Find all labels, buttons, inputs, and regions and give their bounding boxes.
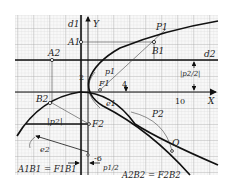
- label-y: Y: [93, 19, 100, 29]
- point-q: [171, 150, 174, 153]
- label-p1-dim: p1: [105, 67, 115, 76]
- equation-1: A1B1 = F1B1: [17, 164, 77, 174]
- label-q: Q: [172, 138, 180, 148]
- label-p2-curve: P2: [151, 109, 164, 119]
- label-half-p2: |p2/2|: [180, 70, 200, 78]
- label-e2: e2: [40, 145, 50, 154]
- label-b1: B1: [151, 46, 164, 56]
- label-a2: A2: [47, 48, 60, 58]
- point-f1: [99, 89, 102, 92]
- parabola-diagram: d1 Y X d2 A1 A2 B1 B2 P1 P2 F1 F2 Q p1 e…: [0, 0, 233, 193]
- tick-4: 4: [122, 80, 127, 89]
- point-origin-6: [87, 154, 89, 156]
- label-f2: F2: [91, 119, 104, 129]
- label-x: X: [207, 96, 215, 106]
- equation-2: A2B2 = F2B2: [121, 170, 181, 180]
- point-b1: [152, 40, 155, 43]
- label-e1: e1: [106, 99, 116, 108]
- tick-2: 2: [79, 73, 84, 82]
- label-d2: d2: [204, 49, 216, 59]
- label-f1: F1: [98, 79, 110, 88]
- tick-neg6: -6: [94, 154, 102, 163]
- label-a1: A1: [67, 37, 80, 47]
- label-b2: B2: [35, 94, 49, 104]
- point-a2: [50, 58, 53, 61]
- point-b2: [48, 101, 51, 104]
- tick-10: 10: [175, 97, 185, 106]
- label-d1: d1: [68, 19, 80, 29]
- label-half-p1: p1/2: [103, 164, 119, 172]
- label-p1-curve: P1: [155, 22, 168, 32]
- label-p2-abs: |p2|: [47, 117, 63, 126]
- point-f2: [88, 123, 91, 126]
